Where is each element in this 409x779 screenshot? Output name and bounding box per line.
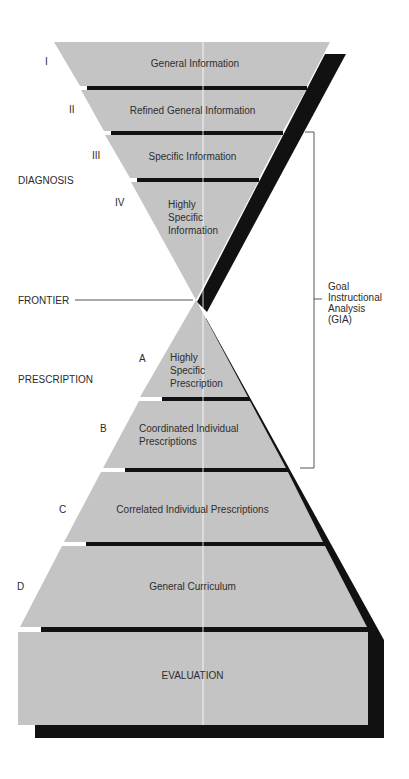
band-A-label-line: Specific [170, 364, 223, 377]
band-II-label: Refined General Information [100, 104, 285, 117]
level-letter-A: A [139, 353, 146, 365]
prescription-label: PRESCRIPTION [18, 374, 93, 386]
band-II-divider [111, 131, 283, 135]
band-A-label-line: Highly [170, 351, 223, 364]
gia-bracket [300, 132, 314, 468]
gia-label-line: (GIA) [328, 314, 382, 325]
band-A-label: Highly Specific Prescription [170, 351, 223, 390]
band-C-label: Correlated Individual Prescriptions [90, 503, 295, 516]
band-C-divider [86, 542, 323, 546]
band-I-label: General Information [100, 57, 290, 70]
level-letter-D: D [17, 581, 24, 593]
band-B-divider [125, 468, 286, 472]
level-numeral-III: III [92, 150, 100, 162]
gia-label-line: Analysis [328, 303, 382, 314]
band-D-label: General Curriculum [110, 580, 275, 593]
band-III-divider [137, 178, 259, 182]
band-IV-label-line: Specific [168, 211, 218, 224]
band-A-label-line: Prescription [170, 377, 223, 390]
level-numeral-I: I [45, 56, 48, 68]
level-numeral-IV: IV [115, 197, 124, 209]
level-letter-B: B [100, 423, 107, 435]
frontier-label: FRONTIER [18, 295, 69, 307]
gia-label-line: Instructional [328, 292, 382, 303]
band-IV-label-line: Highly [168, 198, 218, 211]
band-A-divider [162, 397, 248, 401]
diagnosis-label: DIAGNOSIS [18, 175, 74, 187]
band-B-label-line: Prescriptions [139, 435, 239, 448]
band-IV-label-line: Information [168, 224, 218, 237]
band-III-label: Specific Information [110, 150, 275, 163]
level-letter-C: C [59, 504, 66, 516]
evaluation-label: EVALUATION [110, 669, 275, 682]
gia-label: Goal Instructional Analysis (GIA) [328, 281, 382, 325]
level-numeral-II: II [69, 104, 75, 116]
gia-label-line: Goal [328, 281, 382, 292]
band-B-label: Coordinated Individual Prescriptions [139, 422, 239, 448]
band-B-label-line: Coordinated Individual [139, 422, 239, 435]
band-I-divider [87, 86, 307, 90]
band-IV-label: Highly Specific Information [168, 198, 218, 237]
band-D-divider [41, 627, 368, 632]
